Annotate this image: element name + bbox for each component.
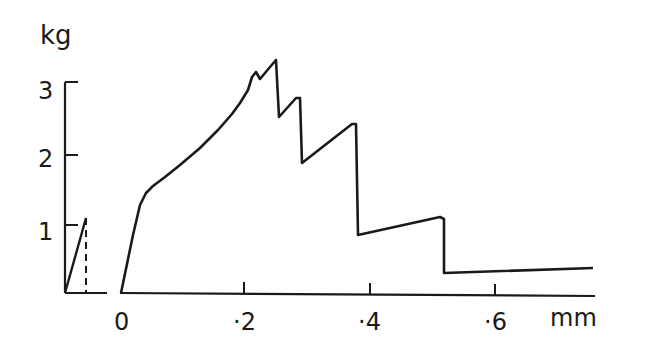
x-tick-label-4: ·4 <box>358 308 381 336</box>
y-tick-label-1: 1 <box>38 218 53 246</box>
x-axis <box>120 293 595 296</box>
load-displacement-chart: kg 3 2 1 0 ·2 ·4 ·6 mm <box>0 0 658 357</box>
inset-ramp <box>65 218 86 293</box>
x-tick-label-2: ·2 <box>233 308 256 336</box>
x-tick-label-0: 0 <box>114 308 129 336</box>
y-unit-label: kg <box>40 20 72 50</box>
y-tick-label-3: 3 <box>38 77 53 105</box>
y-tick-label-2: 2 <box>38 145 53 173</box>
x-unit-label: mm <box>550 304 597 332</box>
load-curve <box>121 60 593 293</box>
x-tick-label-6: ·6 <box>484 308 507 336</box>
